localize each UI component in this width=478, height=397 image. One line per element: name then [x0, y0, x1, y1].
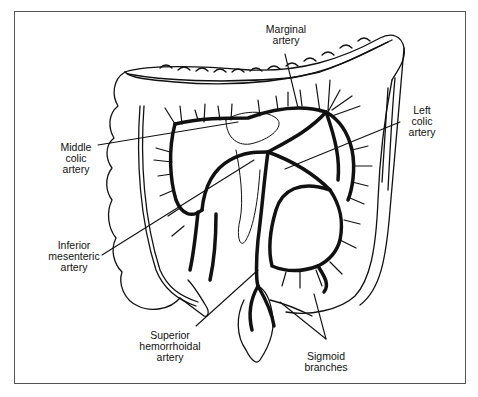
label-inferior-mesenteric-artery: Inferior mesenteric artery: [44, 240, 104, 273]
label-left-colic-artery: Left colic artery: [400, 105, 444, 138]
label-marginal-artery: Marginal artery: [262, 24, 310, 46]
leader-middle-colic-artery: [98, 122, 238, 145]
colon-artery-illustration: [0, 0, 478, 397]
label-superior-hemorrhoidal-artery: Superior hemorrhoidal artery: [136, 330, 204, 363]
leader-sigmoid-branch-2: [314, 294, 326, 339]
leader-inferior-mesenteric-artery: [102, 160, 254, 255]
leader-sigmoid-branch-1: [280, 302, 326, 339]
leader-marginal-artery: [285, 54, 298, 108]
artery-network: [171, 108, 354, 330]
colon-outline: [107, 35, 405, 362]
label-middle-colic-artery: Middle colic artery: [54, 142, 98, 175]
label-sigmoid-branches: Sigmoid branches: [300, 351, 352, 373]
